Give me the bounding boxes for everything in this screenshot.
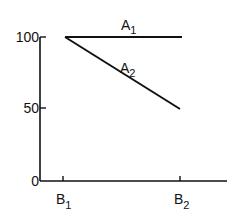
y-tick-label-100: 100 — [16, 29, 40, 45]
y-tick-label-50: 50 — [23, 100, 39, 116]
line-chart: 100 50 0 B1 B2 A1 A2 — [0, 0, 239, 222]
series-a1-label: A1 — [121, 17, 136, 36]
x-tick-label-b2: B2 — [174, 191, 189, 211]
x-tick-label-b1: B1 — [56, 191, 71, 211]
y-tick-label-0: 0 — [31, 173, 39, 189]
